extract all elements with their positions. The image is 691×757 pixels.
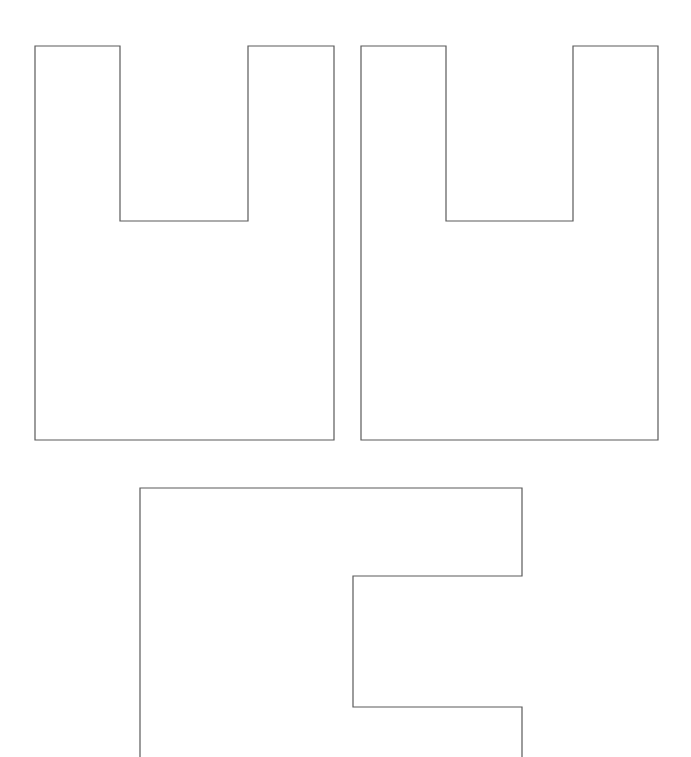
u-shape-left <box>35 46 334 440</box>
e-shape-bottom <box>140 488 522 757</box>
diagram-canvas <box>0 0 691 757</box>
u-shape-right <box>361 46 658 440</box>
